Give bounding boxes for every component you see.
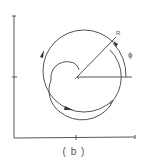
spiral-outer-loop (43, 30, 113, 112)
arrow-bottom-icon (64, 106, 73, 110)
spiral-middle-loop (49, 62, 113, 120)
figure-caption: ( b ) (0, 146, 148, 157)
radius-label: R (116, 30, 121, 36)
spiral-diagram: R ϕ (0, 0, 148, 166)
arrow-outer-left-icon (40, 50, 44, 58)
angle-label: ϕ (128, 50, 133, 59)
x-axis (14, 137, 135, 138)
angle-arc (113, 43, 126, 77)
radius-line (77, 37, 116, 77)
